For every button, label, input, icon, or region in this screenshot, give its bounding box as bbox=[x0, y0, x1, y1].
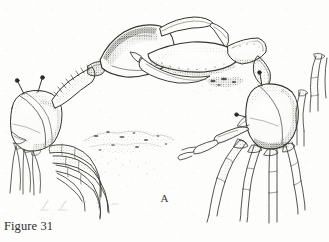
panel-label-a: A bbox=[0, 192, 329, 204]
crab-left-walking-legs bbox=[10, 142, 109, 219]
figure-caption: Figure 31 bbox=[4, 219, 53, 234]
crab-right-walking-legs bbox=[207, 139, 305, 223]
crab-partial-right-margin bbox=[296, 53, 327, 146]
crab-combat-illustration bbox=[0, 0, 329, 242]
illustration-canvas bbox=[0, 0, 329, 242]
figure-page: A Figure 31 bbox=[0, 0, 329, 242]
